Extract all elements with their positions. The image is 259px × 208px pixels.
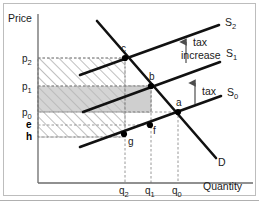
price-tick-h: h — [26, 131, 32, 142]
tax-annotation-label: tax — [202, 85, 217, 97]
point-label-c: c — [121, 43, 126, 54]
supply-label-s1-text: S — [226, 47, 233, 59]
tax-increase-annotation-line2: increase — [181, 49, 221, 61]
demand-label: D — [218, 156, 226, 168]
point-label-g: g — [128, 136, 134, 147]
quantity-tick-q2-sub: 2 — [125, 190, 129, 199]
y-axis-title: Price — [8, 12, 32, 24]
quantity-tick-q0-sub: 0 — [178, 190, 182, 199]
price-tick-p1-sub: 1 — [28, 86, 32, 95]
point-label-a: a — [176, 97, 182, 108]
point-g-dot — [121, 131, 127, 137]
economics-supply-demand-figure: Price Quantity p2 p1 p0 e h q2 q1 q0 S2 … — [0, 0, 259, 208]
point-b-dot — [148, 83, 154, 89]
point-a-dot — [175, 109, 181, 115]
point-label-f: f — [153, 125, 156, 136]
price-tick-p2-sub: 2 — [28, 58, 32, 67]
supply-label-s2-text: S — [225, 16, 232, 28]
supply-label-s0-sub: 0 — [234, 92, 238, 101]
point-label-b: b — [149, 71, 155, 82]
x-axis-title: Quantity — [203, 180, 243, 192]
supply-label-s2-sub: 2 — [232, 22, 236, 31]
supply-label-s0-text: S — [227, 86, 234, 98]
tax-increase-annotation-line1: tax — [193, 36, 208, 48]
point-c-dot — [122, 55, 128, 61]
supply-label-s1-sub: 1 — [233, 53, 237, 62]
quantity-tick-q1-sub: 1 — [151, 190, 155, 199]
price-tick-e: e — [26, 119, 32, 130]
